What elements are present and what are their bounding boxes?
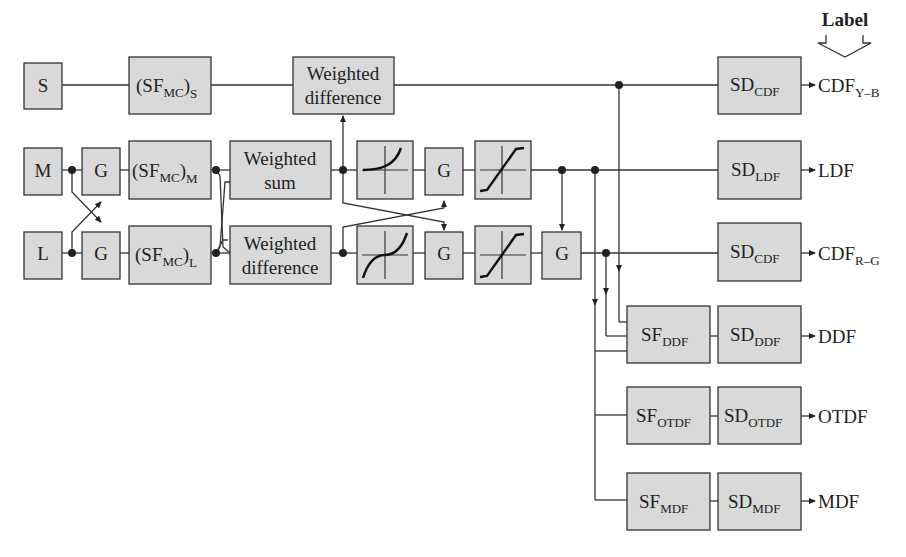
output-label-mdf: MDF	[818, 491, 859, 512]
label-header: Label	[822, 9, 868, 30]
weighted-difference-s: Weighted difference	[293, 57, 394, 114]
sf-ddf: SFDDF	[627, 306, 710, 363]
sf-otdf: SFOTDF	[627, 387, 710, 444]
sd-ldf: SDLDF	[718, 141, 801, 199]
gain-rg: G	[542, 232, 581, 279]
svg-text:L: L	[37, 243, 49, 264]
gain-m: G	[82, 148, 120, 195]
svg-text:Weighted: Weighted	[244, 233, 317, 254]
gain-l-2: G	[425, 232, 463, 279]
output-label-ldf: LDF	[818, 160, 854, 181]
svg-text:sum: sum	[264, 172, 296, 193]
svg-text:difference: difference	[305, 87, 382, 108]
svg-text:G: G	[437, 160, 451, 181]
svg-text:Weighted: Weighted	[244, 148, 317, 169]
sfmc-s: (SFMC)S	[129, 57, 211, 114]
diagram-canvas: Label	[0, 0, 906, 557]
input-s: S	[24, 63, 62, 109]
svg-text:Weighted: Weighted	[307, 63, 380, 84]
nonlinearity-expansive-icon	[357, 141, 413, 199]
nonlinearity-cubic-icon	[357, 226, 413, 284]
sd-mdf: SDMDF	[718, 473, 801, 530]
sfmc-l: (SFMC)L	[129, 226, 211, 284]
sd-cdf-yb: SDCDF	[718, 57, 801, 114]
sd-cdf-rg: SDCDF	[718, 223, 801, 281]
output-label-otdf: OTDF	[818, 406, 868, 427]
label-arrow-icon	[818, 35, 871, 57]
svg-text:G: G	[94, 160, 108, 181]
weighted-difference-l: Weighted difference	[230, 226, 331, 284]
sf-mdf: SFMDF	[627, 473, 710, 530]
svg-text:S: S	[38, 75, 49, 96]
weighted-sum: Weighted sum	[230, 141, 331, 199]
gain-l: G	[82, 232, 120, 279]
input-l: L	[24, 232, 62, 279]
svg-text:difference: difference	[242, 257, 319, 278]
nonlinearity-sigmoid-m-icon	[475, 141, 531, 199]
nonlinearity-sigmoid-l-icon	[475, 226, 531, 284]
output-label-cdf-yb: CDFY–B	[818, 75, 880, 100]
svg-text:G: G	[94, 243, 108, 264]
svg-text:G: G	[437, 243, 451, 264]
output-label-cdf-rg: CDFR–G	[818, 243, 880, 268]
sd-otdf: SDOTDF	[718, 387, 801, 444]
output-label-ddf: DDF	[818, 326, 856, 347]
gain-m-2: G	[425, 148, 463, 195]
input-m: M	[24, 148, 62, 195]
sfmc-m: (SFMC)M	[129, 141, 211, 199]
svg-text:G: G	[555, 243, 569, 264]
svg-text:M: M	[35, 160, 52, 181]
sd-ddf: SDDDF	[718, 306, 801, 363]
